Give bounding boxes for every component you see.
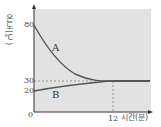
y-tick-80: 80	[24, 20, 34, 29]
x-axis-label: 시간(분)	[121, 111, 148, 122]
y-tick-20: 20	[24, 86, 34, 95]
y-tick-30: 30	[24, 76, 34, 85]
x-tick-12: 12	[108, 114, 118, 123]
curve-b-label: B	[52, 89, 59, 100]
temperature-chart: 온도(℃) 80 30 20 0 12 시간(분) A B	[0, 0, 161, 127]
y-tick-0: 0	[28, 110, 33, 119]
curve-a-label: A	[52, 42, 59, 53]
y-axis-label: 온도(℃)	[2, 14, 14, 54]
y-axis-arrow-icon	[32, 4, 36, 9]
